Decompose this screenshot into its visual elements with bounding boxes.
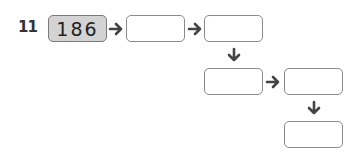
answer-box-5[interactable] — [284, 121, 343, 148]
answer-box-4[interactable] — [284, 68, 343, 95]
answer-box-2[interactable] — [204, 15, 263, 42]
answer-box-3[interactable] — [204, 68, 263, 95]
arrow-right-icon — [108, 21, 124, 37]
arrow-down-icon — [306, 100, 322, 116]
answer-box-1[interactable] — [126, 15, 185, 42]
problem-number: 11 — [18, 18, 37, 36]
arrow-right-icon — [187, 21, 203, 37]
arrow-right-icon — [265, 74, 281, 90]
start-value-box: 186 — [48, 15, 107, 42]
arrow-down-icon — [226, 47, 242, 63]
start-value: 186 — [56, 18, 98, 40]
